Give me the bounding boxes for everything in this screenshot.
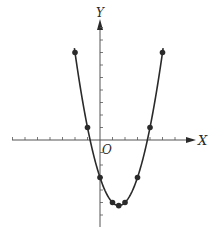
axes	[12, 19, 196, 227]
origin-label: O	[102, 143, 112, 157]
data-point	[72, 50, 78, 56]
parabola-chart: X Y O	[0, 0, 213, 239]
data-point	[122, 200, 128, 206]
data-point	[147, 125, 153, 131]
data-point	[85, 125, 91, 131]
y-axis-arrow-icon	[97, 19, 103, 30]
y-axis-label: Y	[96, 6, 105, 20]
data-point	[116, 203, 122, 209]
x-axis-label: X	[197, 133, 208, 148]
x-axis-arrow-icon	[186, 137, 196, 143]
data-point	[110, 200, 116, 206]
data-point	[160, 50, 166, 56]
data-point	[135, 175, 141, 181]
data-points	[72, 50, 165, 209]
data-point	[97, 175, 103, 181]
